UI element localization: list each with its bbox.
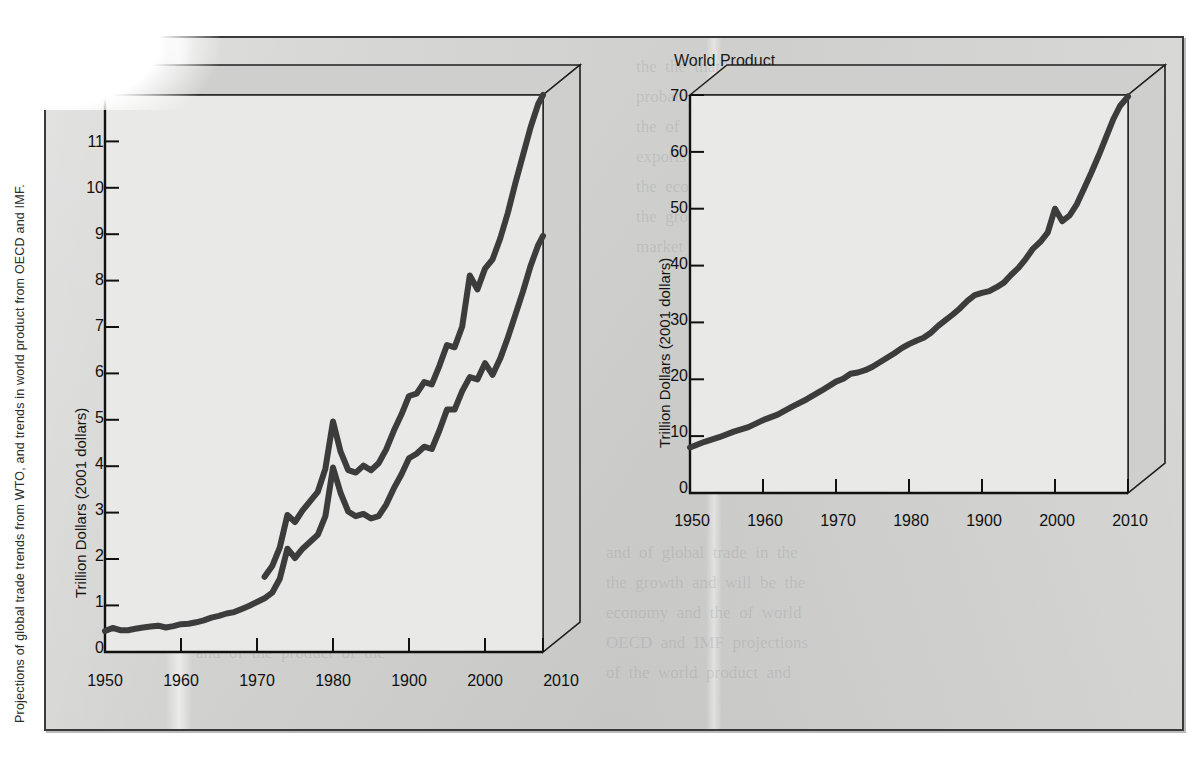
- plot-right-face: [1128, 65, 1165, 493]
- chart-trade-plot: [46, 38, 616, 729]
- chart-world-product: World Product Trillion Dollars (2001 dol…: [630, 38, 1182, 729]
- figure-page: Projections of global trade trends from …: [0, 0, 1198, 765]
- plot-right-face: [543, 65, 580, 652]
- plot-top-face: [105, 65, 580, 95]
- chart-trade: Trade Trillion Dollars (2001 dollars) 12…: [46, 38, 616, 729]
- figure-caption: Projections of global trade trends from …: [13, 23, 27, 723]
- chart-world-product-plot: [630, 38, 1182, 729]
- plot-background: [690, 95, 1128, 493]
- figure-panel: the the that with probably not the with …: [44, 36, 1184, 731]
- figure-caption-rail: Projections of global trade trends from …: [0, 36, 34, 728]
- plot-top-face: [690, 65, 1165, 95]
